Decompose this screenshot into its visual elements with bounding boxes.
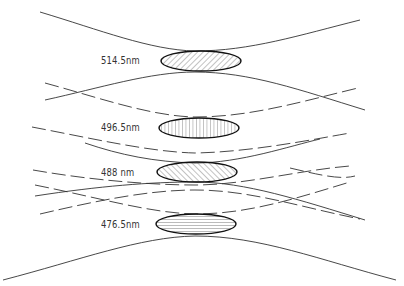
- beam-476-dashed-upper: [35, 182, 350, 214]
- label-476: 476.5nm: [101, 218, 140, 231]
- label-514: 514.5nm: [101, 54, 140, 67]
- beam-514-upper-edge: [40, 12, 360, 51]
- label-488: 488 nm: [101, 166, 134, 179]
- label-496: 496.5nm: [101, 121, 140, 134]
- beam-496-upper-edge: [45, 83, 358, 117]
- beam-488-upper-edge: [85, 139, 320, 163]
- waist-488: [157, 162, 237, 182]
- beam-476-lower-edge: [3, 236, 396, 280]
- waist-476: [156, 214, 236, 234]
- beam-514-lower-edge: [45, 72, 365, 110]
- waist-496: [159, 118, 239, 138]
- beam-diagram: [0, 0, 404, 286]
- waist-514: [161, 51, 241, 71]
